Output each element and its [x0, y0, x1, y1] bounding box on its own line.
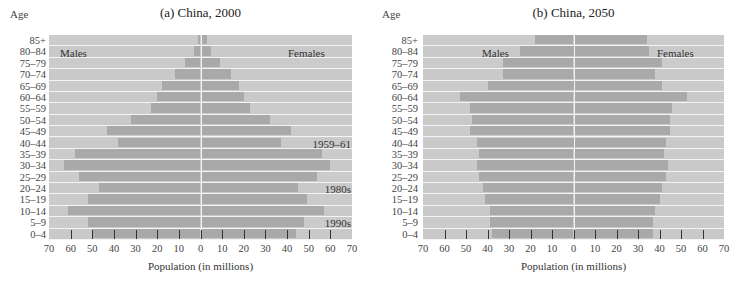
female-bar: [201, 206, 324, 215]
y-axis-label: Age: [382, 8, 400, 20]
age-tick-label: 5–9: [374, 217, 418, 228]
x-axis-label: Population (in millions): [49, 260, 352, 272]
male-bar: [92, 229, 200, 238]
age-tick-label: 0–4: [374, 229, 418, 240]
female-bar: [574, 183, 662, 192]
age-tick-label: 55–59: [2, 103, 46, 114]
x-tick: [309, 230, 310, 239]
x-tick: [136, 230, 137, 239]
females-label: Females: [288, 47, 325, 59]
cohort-annotation: 1990s: [325, 217, 351, 229]
x-tick-label: 60: [59, 243, 83, 254]
x-tick-label: 40: [102, 243, 126, 254]
age-tick-label: 60–64: [2, 92, 46, 103]
age-tick-label: 70–74: [374, 69, 418, 80]
x-tick-label: 10: [540, 243, 564, 254]
x-tick-label: 50: [669, 243, 693, 254]
male-bar: [503, 69, 574, 78]
x-tick-label: 40: [648, 243, 672, 254]
female-bar: [574, 217, 654, 226]
female-bar: [574, 194, 660, 203]
female-bar: [201, 69, 231, 78]
male-bar: [470, 126, 573, 135]
female-bar: [201, 103, 251, 112]
age-tick-label: 10–14: [2, 206, 46, 217]
x-tick: [595, 230, 596, 239]
age-tick-label: 35–39: [374, 149, 418, 160]
x-tick-label: 50: [454, 243, 478, 254]
x-tick: [488, 230, 489, 239]
x-tick-label: 40: [476, 243, 500, 254]
x-tick: [552, 230, 553, 239]
males-label: Males: [482, 47, 509, 59]
x-tick: [531, 230, 532, 239]
male-bar: [162, 81, 201, 90]
female-bar: [574, 81, 662, 90]
x-tick-label: 60: [691, 243, 715, 254]
x-tick: [222, 230, 223, 239]
age-tick-label: 20–24: [2, 183, 46, 194]
x-tick-label: 70: [712, 243, 736, 254]
males-label: Males: [60, 47, 87, 59]
x-tick-label: 0: [189, 243, 213, 254]
female-bar: [574, 126, 671, 135]
age-tick-label: 15–19: [374, 194, 418, 205]
x-tick-label: 40: [275, 243, 299, 254]
chart-title: (a) China, 2000: [49, 5, 352, 21]
age-tick-label: 50–54: [374, 115, 418, 126]
female-bar: [574, 103, 673, 112]
x-tick: [114, 230, 115, 239]
x-tick: [638, 230, 639, 239]
female-bar: [201, 160, 331, 169]
x-tick: [681, 230, 682, 239]
female-bar: [574, 172, 666, 181]
male-bar: [479, 149, 574, 158]
x-tick: [287, 230, 288, 239]
male-bar: [472, 115, 573, 124]
age-tick-label: 55–59: [374, 103, 418, 114]
x-tick: [445, 230, 446, 239]
x-tick: [92, 230, 93, 239]
x-tick-label: 50: [297, 243, 321, 254]
x-tick-label: 70: [37, 243, 61, 254]
male-bar: [520, 46, 574, 55]
x-tick: [660, 230, 661, 239]
age-tick-label: 45–49: [2, 126, 46, 137]
cohort-annotation: 1980s: [325, 183, 351, 195]
x-tick-label: 30: [626, 243, 650, 254]
female-bar: [201, 58, 220, 67]
x-tick-label: 30: [253, 243, 277, 254]
female-bar: [574, 58, 662, 67]
female-bar: [574, 206, 656, 215]
female-bar: [574, 138, 666, 147]
female-bar: [201, 229, 296, 238]
x-tick-label: 60: [318, 243, 342, 254]
x-tick-label: 30: [497, 243, 521, 254]
age-tick-label: 5–9: [2, 217, 46, 228]
female-bar: [574, 160, 669, 169]
male-bar: [88, 217, 201, 226]
x-tick-label: 20: [519, 243, 543, 254]
male-bar: [151, 103, 201, 112]
male-bar: [490, 217, 574, 226]
male-bar: [477, 138, 574, 147]
age-tick-label: 40–44: [374, 138, 418, 149]
age-tick-label: 25–29: [2, 172, 46, 183]
male-bar: [118, 138, 200, 147]
female-bar: [574, 69, 656, 78]
male-bar: [477, 160, 574, 169]
female-bar: [574, 229, 654, 238]
plot-area: [423, 35, 724, 240]
female-bar: [201, 217, 305, 226]
x-tick-label: 20: [232, 243, 256, 254]
x-tick-label: 50: [80, 243, 104, 254]
male-bar: [75, 149, 201, 158]
female-bar: [201, 138, 281, 147]
x-tick-label: 10: [167, 243, 191, 254]
x-tick: [617, 230, 618, 239]
age-tick-label: 20–24: [374, 183, 418, 194]
female-bar: [201, 115, 270, 124]
x-tick: [157, 230, 158, 239]
male-bar: [503, 58, 574, 67]
female-bar: [574, 35, 647, 44]
